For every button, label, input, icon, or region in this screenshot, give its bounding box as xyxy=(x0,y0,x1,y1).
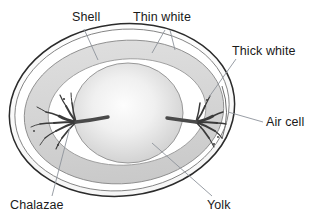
label-thick-white: Thick white xyxy=(232,45,296,58)
yolk-layer xyxy=(73,63,183,163)
label-shell: Shell xyxy=(72,11,100,24)
label-yolk: Yolk xyxy=(207,199,231,212)
label-air-cell: Air cell xyxy=(266,116,304,129)
label-thin-white: Thin white xyxy=(133,11,191,24)
label-chalazae: Chalazae xyxy=(10,199,64,212)
egg-anatomy-diagram: Shell Thin white Thick white Air cell Ch… xyxy=(0,0,319,222)
egg-cross-section-illustration xyxy=(0,0,319,222)
yolk-sphere xyxy=(73,63,183,163)
